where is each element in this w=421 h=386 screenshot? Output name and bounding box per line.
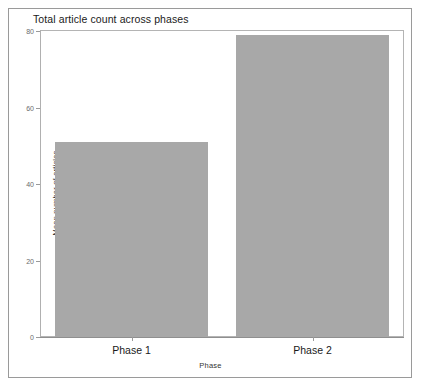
x-axis-title: Phase (0, 361, 421, 370)
y-axis-tick: 80 (26, 22, 40, 40)
x-axis-line (40, 337, 404, 338)
x-axis-tick-label: Phase 2 (293, 344, 332, 356)
x-axis-tick-label: Phase 1 (112, 344, 151, 356)
y-axis-tick-mark (36, 108, 40, 109)
y-axis-tick: 20 (26, 252, 40, 270)
bar (55, 142, 208, 337)
y-axis-tick-label: 60 (26, 105, 36, 112)
y-axis-tick: 0 (30, 328, 40, 346)
y-axis-tick-mark (36, 184, 40, 185)
y-axis-tick-mark (36, 337, 40, 338)
y-axis-tick-label: 20 (26, 258, 36, 265)
x-axis-tick-mark (132, 337, 133, 341)
chart-window: Total article count across phases Mean n… (0, 0, 421, 386)
y-axis-tick-label: 40 (26, 181, 36, 188)
chart-title: Total article count across phases (33, 13, 189, 25)
y-axis-tick: 60 (26, 99, 40, 117)
y-axis-tick-mark (36, 261, 40, 262)
y-axis-tick: 40 (26, 175, 40, 193)
bar (236, 35, 389, 337)
y-axis-tick-label: 80 (26, 28, 36, 35)
x-axis-tick-mark (313, 337, 314, 341)
plot-area (41, 31, 403, 337)
y-axis-tick-mark (36, 31, 40, 32)
